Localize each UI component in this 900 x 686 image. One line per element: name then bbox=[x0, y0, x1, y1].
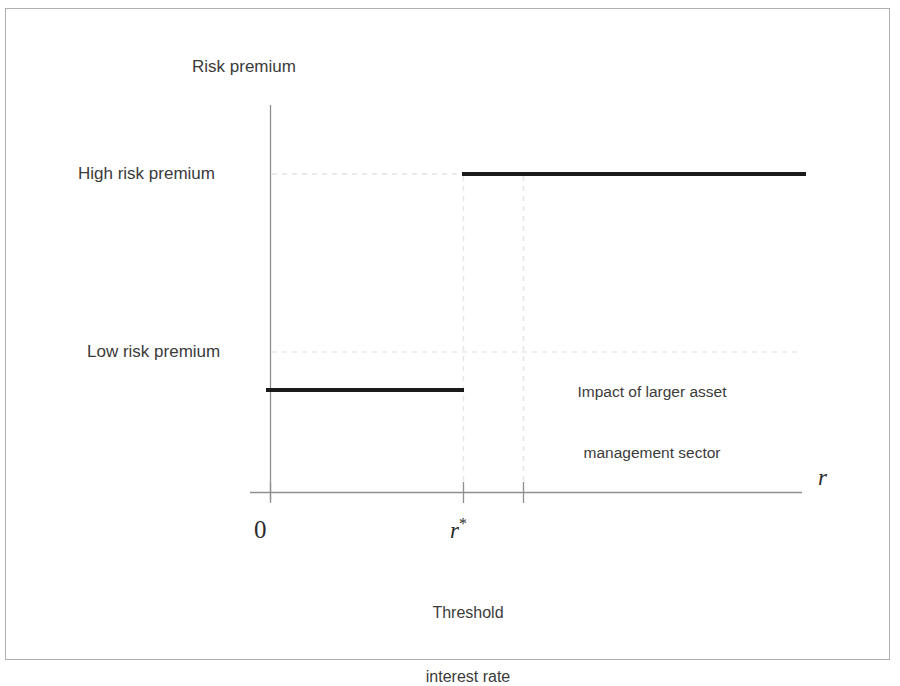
x-tick-label-rstar: r* bbox=[450, 513, 467, 546]
high-risk-premium-label: High risk premium bbox=[78, 163, 215, 185]
impact-annotation-line-1: Impact of larger asset bbox=[552, 382, 752, 402]
low-risk-premium-label: Low risk premium bbox=[87, 341, 220, 363]
y-axis-title: Risk premium bbox=[192, 56, 296, 78]
x-axis-title: r bbox=[818, 463, 827, 493]
x-tick-label-zero: 0 bbox=[254, 513, 267, 546]
rstar-base: r bbox=[450, 518, 459, 543]
impact-annotation: Impact of larger asset management sector bbox=[552, 341, 752, 484]
threshold-label-line-2: interest rate bbox=[399, 666, 537, 686]
threshold-label-line-1: Threshold bbox=[399, 602, 537, 623]
threshold-interest-rate-label: Threshold interest rate bbox=[399, 560, 537, 686]
impact-annotation-line-2: management sector bbox=[552, 443, 752, 463]
rstar-superscript: * bbox=[459, 515, 467, 532]
